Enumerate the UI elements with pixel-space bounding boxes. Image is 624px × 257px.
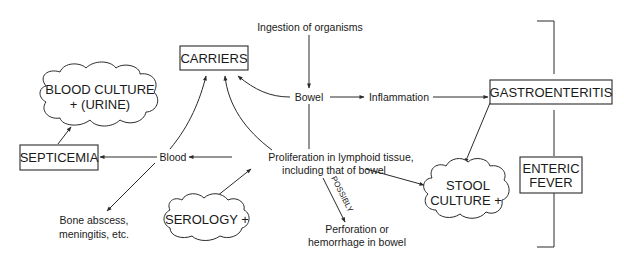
possibly-label: POSSIBLY: [329, 175, 355, 214]
perforation-label-line1: Perforation or: [325, 223, 389, 235]
pathogenesis-diagram: Ingestion of organisms Bowel Inflammatio…: [0, 0, 624, 257]
inflammation-label: Inflammation: [369, 91, 429, 103]
arrow-septicemia-to-blood-culture: [58, 127, 71, 144]
proliferation-label-line1: Proliferation in lymphoid tissue,: [268, 151, 413, 163]
carriers-box: CARRIERS: [180, 46, 248, 70]
enteric-fever-label-line1: ENTERIC: [522, 161, 579, 176]
septicemia-box: SEPTICEMIA: [20, 145, 99, 170]
stool-culture-label-line2: CULTURE +: [430, 193, 502, 208]
carriers-label: CARRIERS: [180, 51, 248, 66]
proliferation-label-line2: including that of bowel: [282, 164, 386, 176]
bone-abscess-label-line1: Bone abscess,: [60, 214, 129, 226]
arrow-blood-to-carriers: [170, 76, 206, 149]
bowel-label: Bowel: [295, 91, 324, 103]
arrow-bowel-to-carriers: [238, 76, 290, 97]
serology-cloud: SEROLOGY +: [164, 194, 249, 241]
blood-culture-cloud: BLOOD CULTURE + (URINE): [40, 62, 158, 126]
arrow-blood-to-bone-abscess: [107, 163, 155, 211]
bone-abscess-label-line2: meningitis, etc.: [59, 228, 129, 240]
enteric-fever-box: ENTERIC FEVER: [520, 157, 582, 193]
serology-label: SEROLOGY +: [165, 212, 249, 227]
blood-label: Blood: [160, 151, 187, 163]
septicemia-label: SEPTICEMIA: [20, 150, 99, 165]
gastroenteritis-label: GASTROENTERITIS: [490, 85, 613, 100]
perforation-label-line2: hemorrhage in bowel: [308, 236, 406, 248]
stool-culture-label-line1: STOOL: [446, 178, 490, 193]
gastroenteritis-box: GASTROENTERITIS: [490, 80, 613, 104]
enteric-fever-label-line2: FEVER: [529, 175, 572, 190]
blood-culture-label-line2: + (URINE): [70, 97, 130, 112]
enteric-fever-bracket: [537, 21, 554, 247]
arrow-proliferation-to-carriers: [225, 76, 272, 150]
ingestion-label: Ingestion of organisms: [257, 21, 363, 33]
edges: [58, 35, 490, 222]
stool-culture-cloud: STOOL CULTURE +: [424, 159, 509, 219]
blood-culture-label-line1: BLOOD CULTURE: [45, 82, 155, 97]
arrow-gastroenteritis-to-stool-culture: [465, 103, 490, 163]
